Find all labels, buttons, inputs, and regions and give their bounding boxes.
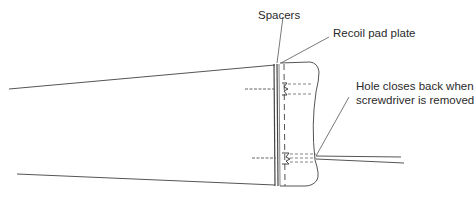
spacers [274, 64, 280, 186]
spacers-leader [277, 17, 283, 63]
hole-label-line1: Hole closes back when [356, 80, 474, 93]
stock-top-edge [9, 65, 275, 89]
lower-screw [252, 153, 316, 164]
recoil-pad-plate-label: Recoil pad plate [333, 27, 415, 40]
stock-bottom-edge [17, 174, 275, 185]
recoil-pad-plate [284, 64, 285, 186]
hole-leader [316, 97, 349, 156]
recoil-pad [280, 62, 319, 186]
spacers-label: Spacers [258, 9, 300, 22]
recoil-pad-plate-leader [281, 37, 329, 63]
hole-label-line2: screwdriver is removed [356, 94, 474, 107]
screwdriver-shaft [316, 156, 404, 163]
